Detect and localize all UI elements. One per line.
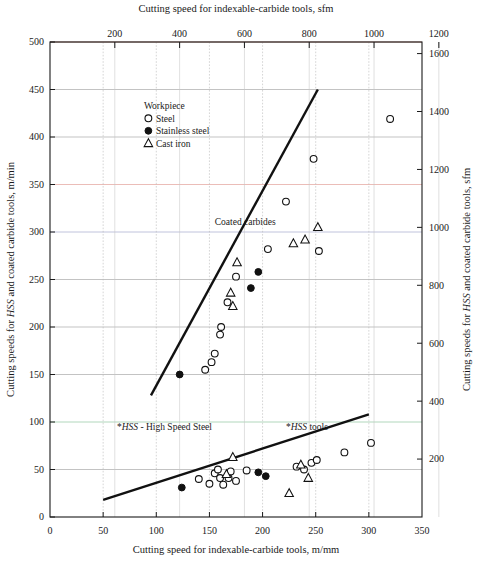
tick-label-left-50: 50 [34,464,44,475]
legend-title: Workpiece [144,101,185,111]
top-axis-title: Cutting speed for indexable-carbide tool… [139,3,334,14]
legend-label-1: Stainless steel [156,126,210,136]
data-point [341,449,348,456]
tick-label-top-800: 800 [302,28,317,39]
data-point [262,473,269,480]
data-point [202,366,209,373]
tick-label-left-350: 350 [29,179,44,190]
data-point [195,476,202,483]
tick-label-left-500: 500 [29,36,44,47]
tick-label-bottom-300: 300 [361,525,376,536]
tick-label-top-200: 200 [107,28,122,39]
data-point [387,116,394,123]
data-point [264,246,271,253]
data-point [316,248,323,255]
tick-label-top-600: 600 [237,28,252,39]
data-point [217,331,224,338]
tick-label-left-0: 0 [39,511,44,522]
data-point [218,324,225,331]
legend-label-2: Cast iron [156,139,191,149]
tick-label-bottom-150: 150 [202,525,217,536]
data-point [313,457,320,464]
data-point [215,466,222,473]
tick-label-right-1400: 1400 [429,106,449,117]
annotation-0: Coated carbides [215,217,276,227]
tick-label-left-150: 150 [29,369,44,380]
right-axis-title: Cutting speeds for HSS and coated carbid… [461,168,472,391]
legend-marker-open-circle [145,115,152,122]
tick-label-left-250: 250 [29,274,44,285]
data-point [224,299,231,306]
data-point [208,359,215,366]
annotation-1: *HSS tools [286,422,328,432]
chart-background [0,0,480,564]
annotation-2: *HSS - High Speed Steel [117,422,212,432]
tick-label-left-450: 450 [29,84,44,95]
tick-label-bottom-100: 100 [149,525,164,536]
data-point [255,269,262,276]
tick-label-top-1000: 1000 [364,28,384,39]
tick-label-top-400: 400 [172,28,187,39]
legend-label-0: Steel [156,114,175,124]
chart-figure: 0501001502002503003504004505002004006008… [0,0,480,564]
tick-label-left-200: 200 [29,321,44,332]
tick-label-left-300: 300 [29,226,44,237]
tick-label-right-600: 600 [429,338,444,349]
tick-label-bottom-200: 200 [255,525,270,536]
data-point [233,478,240,485]
data-point [220,481,227,488]
left-axis-title: Cutting speeds for HSS and coated carbid… [5,161,16,397]
data-point [247,285,254,292]
tick-label-bottom-0: 0 [48,525,53,536]
tick-label-right-1000: 1000 [429,222,449,233]
data-point [233,273,240,280]
tick-label-right-1200: 1200 [429,164,449,175]
tick-label-right-200: 200 [429,453,444,464]
data-point [283,198,290,205]
data-point [206,480,213,487]
tick-label-bottom-50: 50 [98,525,108,536]
data-point [255,469,262,476]
tick-label-right-1600: 1600 [429,48,449,59]
bottom-axis-title: Cutting speed for indexable-carbide tool… [133,544,339,555]
tick-label-right-400: 400 [429,396,444,407]
data-point [178,484,185,491]
data-point [243,467,250,474]
data-point [368,440,375,447]
tick-label-top-1200: 1200 [429,28,449,39]
data-point [176,371,183,378]
tick-label-left-400: 400 [29,131,44,142]
tick-label-bottom-250: 250 [308,525,323,536]
data-point [211,350,218,357]
legend-marker-filled-circle [145,127,152,134]
tick-label-right-800: 800 [429,280,444,291]
tick-label-left-100: 100 [29,416,44,427]
data-point [310,155,317,162]
tick-label-bottom-350: 350 [415,525,430,536]
cutting-speed-scatter-chart: 0501001502002503003504004505002004006008… [0,0,480,564]
